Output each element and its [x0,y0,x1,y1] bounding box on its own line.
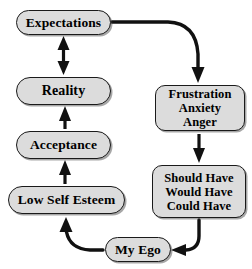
node-frustration[interactable]: Frustration Anxiety Anger [155,85,245,131]
node-should-have-label-line-3: Could Have [167,199,232,213]
edge-expectations-to-frustration [112,22,205,83]
node-frustration-label-line-1: Frustration [169,87,232,101]
edge-expectations-reality [58,36,70,75]
edge-should-have-to-my-ego [171,220,199,256]
node-acceptance[interactable]: Acceptance [16,131,111,159]
edge-low-self-esteem-to-acceptance [59,160,71,184]
edge-my-ego-to-low-self-esteem [60,217,104,250]
node-acceptance-label: Acceptance [30,137,97,152]
node-should-have-label-line-1: Should Have [164,171,234,185]
node-low-self-esteem[interactable]: Low Self Esteem [8,186,125,214]
edge-acceptance-to-reality [59,106,71,129]
node-expectations[interactable]: Expectations [16,10,111,35]
node-reality[interactable]: Reality [16,77,111,105]
edge-frustration-to-should-have [193,134,205,163]
node-should-have[interactable]: Should Have Would Have Could Have [152,165,246,218]
node-frustration-label-line-3: Anger [183,115,217,129]
flow-diagram: Expectations Reality Acceptance Low Self… [0,0,252,269]
node-low-self-esteem-label: Low Self Esteem [18,192,115,207]
node-frustration-label-line-2: Anxiety [179,101,221,115]
node-should-have-label-line-2: Would Have [165,185,232,199]
node-my-ego[interactable]: My Ego [105,237,171,262]
node-my-ego-label: My Ego [115,242,161,257]
node-expectations-label: Expectations [26,15,101,30]
node-reality-label: Reality [42,83,85,99]
